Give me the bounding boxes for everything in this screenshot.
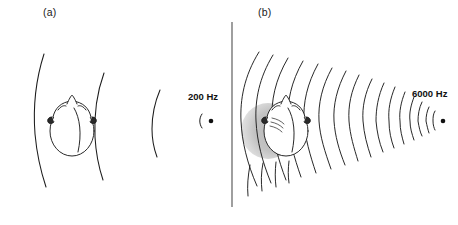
wavefront-arc bbox=[426, 107, 429, 133]
wavefront-arc bbox=[418, 102, 422, 136]
head-top-view-a bbox=[48, 95, 97, 156]
wavefront-arc bbox=[400, 92, 405, 144]
wavefront-arc bbox=[363, 79, 372, 157]
wavefront-arc bbox=[334, 71, 346, 165]
wavefront-arc bbox=[410, 97, 414, 140]
wavefront-arc bbox=[389, 87, 395, 148]
source-high-frequency bbox=[441, 119, 446, 124]
wavefront-arc bbox=[95, 73, 104, 180]
source-wavelet-arc bbox=[200, 114, 202, 128]
figure-sound-diffraction: (a) (b) 200 Hz 6000 Hz bbox=[0, 0, 458, 225]
panel-label-b: (b) bbox=[258, 6, 271, 18]
source-dot-200hz bbox=[209, 119, 214, 124]
wavefront-arc-lower bbox=[275, 162, 276, 187]
figure-canvas bbox=[0, 0, 458, 225]
source-low-frequency bbox=[200, 114, 214, 128]
wavefront-arc bbox=[319, 68, 332, 169]
panel-label-a: (a) bbox=[43, 6, 56, 18]
wavefront-arc-lower bbox=[248, 165, 250, 196]
wavefront-arc-lower bbox=[261, 163, 263, 191]
panel-a-group bbox=[34, 54, 213, 187]
wavefront-arc bbox=[152, 90, 160, 157]
frequency-label-200hz: 200 Hz bbox=[188, 91, 218, 102]
frequency-label-6000hz: 6000 Hz bbox=[412, 88, 447, 99]
wavefront-arc bbox=[349, 75, 359, 161]
source-dot-6000hz bbox=[441, 119, 446, 124]
wavefront-arc bbox=[34, 54, 46, 187]
wavefront-arc bbox=[433, 111, 435, 130]
nose bbox=[67, 95, 77, 104]
wavefront-arc bbox=[376, 83, 384, 152]
wavefront-arc-lower bbox=[288, 161, 289, 183]
panel-b-group bbox=[241, 52, 445, 196]
